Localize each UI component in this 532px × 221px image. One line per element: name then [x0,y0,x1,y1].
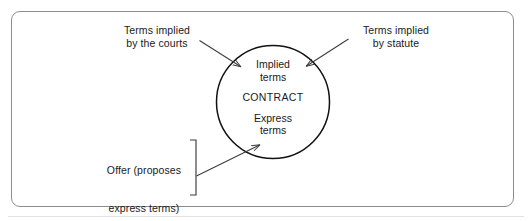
circle-implied-terms-line2: terms [228,71,318,84]
offer-acceptance-group: Offer (proposes express terms) + Accepta… [98,139,190,221]
arrow-offer-to-express [197,145,260,176]
label-courts-line1: Terms implied [124,24,190,36]
label-courts-line2: by the courts [126,37,187,49]
circle-contract-label: CONTRACT [228,91,318,104]
page-edge-artifact [8,216,524,217]
offer-line1: Offer (proposes [98,164,190,177]
label-terms-implied-by-courts: Terms impliedby the courts [113,24,201,49]
label-statute-line1: Terms implied [363,24,429,36]
contract-circle-content: Implied terms CONTRACT Express terms [228,58,318,137]
circle-express-terms-line1: Express [228,112,318,125]
offer-acceptance-bracket [191,140,197,195]
offer-line2: express terms) [98,202,190,215]
circle-express-terms-line2: terms [228,124,318,137]
circle-implied-terms-line1: Implied [228,58,318,71]
label-statute-line2: by statute [373,37,420,49]
diagram-canvas: Terms impliedby the courts Terms implied… [0,0,532,221]
label-terms-implied-by-statute: Terms impliedby statute [352,24,440,49]
